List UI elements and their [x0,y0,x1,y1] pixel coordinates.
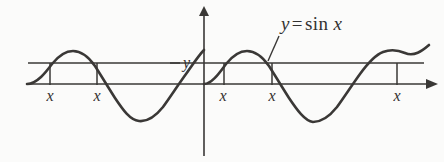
curve-equation-independent-var: x [334,13,343,34]
tick-label-x-2: x [93,88,100,104]
tick-label-x-5: x [393,88,400,104]
curve-equation-operator: = [290,13,305,34]
curve-equation-dependent-var: y [281,13,290,34]
tick-label-x-1: x [46,88,53,104]
y-axis [199,6,209,156]
sine-curve [27,50,204,121]
figure-canvas [0,0,444,162]
curve-label-leader-line [268,36,279,61]
x-axis [30,79,438,89]
tick-label-x-4: x [268,88,275,104]
curve-equation-function-name: sin [305,13,328,34]
y-axis-label: y [183,55,190,71]
sine-graph-figure: y=sin x y x x x x x [0,0,444,162]
tick-label-x-3: x [219,88,226,104]
curve-equation-label: y=sin x [281,14,342,33]
